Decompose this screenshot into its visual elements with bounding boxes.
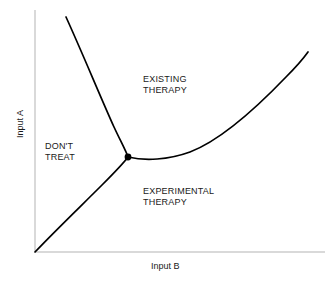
y-axis-title: Input A	[15, 99, 25, 149]
region-label-dont-treat: DON'T TREAT	[45, 141, 75, 163]
region-label-experimental-therapy: EXPERIMENTAL THERAPY	[143, 186, 214, 208]
lower-boundary-curve	[35, 157, 128, 252]
x-axis-title: Input B	[151, 261, 180, 271]
junction-point-marker	[125, 154, 132, 161]
boundary-curves-group	[35, 17, 308, 252]
decision-boundary-chart: EXISTING THERAPY DON'T TREAT EXPERIMENTA…	[0, 0, 329, 282]
region-label-existing-therapy: EXISTING THERAPY	[143, 74, 187, 96]
upper-boundary-curve	[66, 17, 128, 157]
right-boundary-curve	[128, 52, 308, 159]
